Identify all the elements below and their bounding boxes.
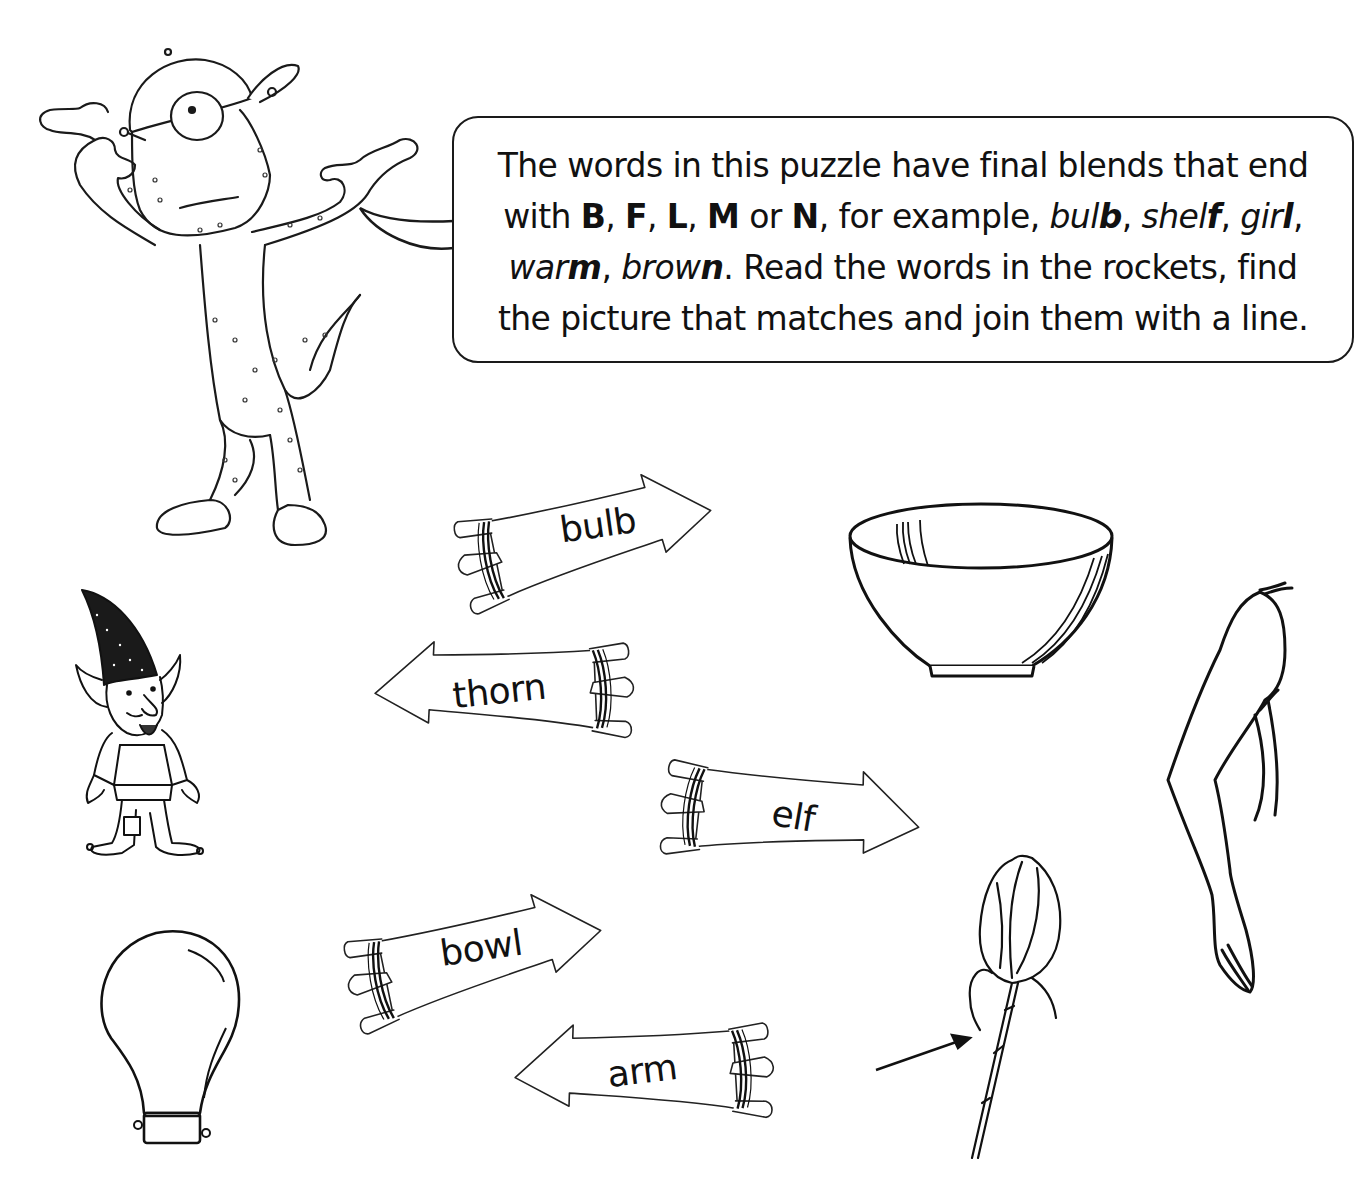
- rocket-word: elf: [769, 792, 819, 840]
- picture-elf[interactable]: [72, 585, 232, 865]
- example-word-girl: girl: [1240, 197, 1293, 236]
- picture-light-bulb[interactable]: [96, 918, 246, 1158]
- text-fragment: ,: [647, 197, 667, 236]
- rocket-thorn[interactable]: thorn: [362, 616, 644, 774]
- example-word-warm: warm: [509, 248, 602, 287]
- instructions-text: The words in this puzzle have final blen…: [454, 140, 1352, 344]
- instructions-line-3: warm, brown. Read the words in the rocke…: [454, 242, 1352, 293]
- text-fragment: . Read the words in the rockets, find: [723, 248, 1297, 287]
- example-word-shelf: shelf: [1142, 197, 1221, 236]
- picture-arm[interactable]: [1160, 580, 1300, 1005]
- instructions-line-2: with B, F, L, M or N, for example, bulb,…: [454, 191, 1352, 242]
- speech-bubble-tail: [356, 208, 466, 268]
- example-word-brown: brown: [621, 248, 723, 287]
- rocket-arm[interactable]: arm: [501, 996, 785, 1158]
- rocket-word: arm: [605, 1046, 679, 1095]
- example-word-bulb: bulb: [1050, 197, 1122, 236]
- text-fragment: with: [503, 197, 581, 236]
- picture-rose-thorn[interactable]: [872, 848, 1072, 1168]
- blend-letter-n: N: [792, 197, 819, 236]
- text-fragment: or: [739, 197, 791, 236]
- bowl-icon: [842, 498, 1122, 678]
- arm-icon: [1160, 580, 1300, 1005]
- blend-letter-l: L: [667, 197, 687, 236]
- instructions-line-4: the picture that matches and join them w…: [454, 293, 1352, 344]
- text-fragment: ,: [605, 197, 625, 236]
- blend-letter-m: M: [707, 197, 739, 236]
- instructions-speech-bubble: The words in this puzzle have final blen…: [452, 116, 1354, 363]
- rocket-bulb[interactable]: bulb: [444, 460, 729, 626]
- monster-illustration: [20, 40, 440, 560]
- text-fragment: , for example,: [819, 197, 1050, 236]
- elf-icon: [72, 585, 232, 865]
- blend-letter-f: F: [625, 197, 647, 236]
- blend-letter-b: B: [581, 197, 606, 236]
- picture-bowl[interactable]: [842, 498, 1122, 678]
- monster-icon: [20, 40, 440, 560]
- light-bulb-icon: [96, 918, 246, 1158]
- text-fragment: ,: [687, 197, 707, 236]
- rose-icon: [872, 848, 1072, 1168]
- instructions-line-1: The words in this puzzle have final blen…: [454, 140, 1352, 191]
